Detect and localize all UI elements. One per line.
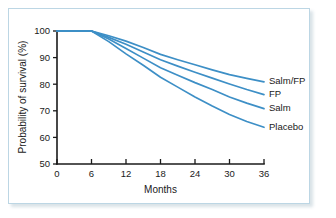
y-tick-label: 100 (34, 25, 50, 36)
y-axis-tick-labels: 100 90 80 70 60 50 (34, 25, 50, 169)
survival-curve-chart: 100 90 80 70 60 50 0 6 12 18 24 30 36 (9, 9, 311, 205)
series-line-fp (57, 31, 264, 95)
series-label-salm: Salm (269, 102, 291, 113)
series-label-fp: FP (269, 88, 281, 99)
x-tick-label: 24 (190, 168, 201, 179)
y-tick-label: 70 (39, 105, 50, 116)
y-tick-label: 90 (39, 52, 50, 63)
x-tick-label: 36 (259, 168, 270, 179)
x-tick-label: 6 (89, 168, 94, 179)
series-group (57, 31, 264, 127)
x-axis-tick-labels: 0 6 12 18 24 30 36 (54, 168, 269, 179)
y-tick-label: 60 (39, 132, 50, 143)
y-axis-title: Probability of survival (%) (17, 41, 28, 154)
x-tick-label: 0 (54, 168, 59, 179)
y-tick-label: 50 (39, 158, 50, 169)
y-tick-label: 80 (39, 79, 50, 90)
series-line-salm (57, 31, 264, 109)
series-line-salm-fp (57, 31, 264, 82)
series-labels-group: Salm/FPFPSalmPlacebo (269, 75, 305, 131)
figure-frame: 100 90 80 70 60 50 0 6 12 18 24 30 36 (8, 8, 310, 204)
x-tick-label: 12 (121, 168, 132, 179)
series-label-placebo: Placebo (269, 121, 303, 132)
series-label-salm-fp: Salm/FP (269, 75, 305, 86)
x-axis-title: Months (144, 184, 177, 195)
x-tick-label: 30 (224, 168, 235, 179)
x-tick-label: 18 (155, 168, 166, 179)
series-line-placebo (57, 31, 264, 127)
